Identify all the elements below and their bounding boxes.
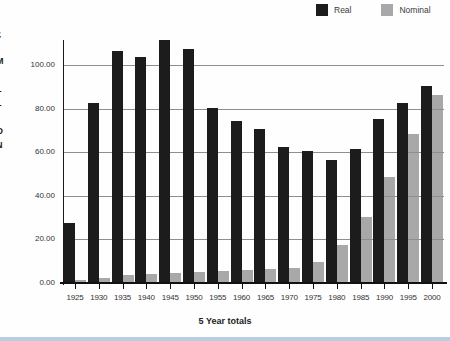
x-tick [218, 284, 219, 289]
bar-real [421, 86, 432, 282]
bar-real [159, 40, 170, 282]
bar-nominal [265, 269, 276, 282]
bar-group [158, 40, 182, 282]
bar-group [373, 40, 397, 282]
bar-group [301, 40, 325, 282]
bar-real [112, 51, 123, 282]
bar-real [231, 121, 242, 282]
bar-group [349, 40, 373, 282]
bar-group [111, 40, 135, 282]
x-tick [384, 284, 385, 289]
bar-group [277, 40, 301, 282]
bar-nominal [361, 217, 372, 282]
bar-nominal [432, 95, 443, 282]
bar-real [326, 160, 337, 282]
bar-real [135, 57, 146, 282]
bar-real [207, 108, 218, 282]
bar-group [396, 40, 420, 282]
x-tick [75, 284, 76, 289]
bar-real [373, 119, 384, 283]
bar-group [134, 40, 158, 282]
x-tick [146, 284, 147, 289]
bar-nominal [194, 272, 205, 282]
bar-real [278, 147, 289, 282]
bar-nominal [289, 268, 300, 282]
bar-nominal [146, 274, 157, 282]
bar-group [206, 40, 230, 282]
bar-nominal [337, 245, 348, 282]
bar-nominal [242, 270, 253, 282]
y-tick-label: 20.00 [15, 234, 55, 244]
y-tick-label: 0.00 [15, 278, 55, 288]
bar-real [64, 223, 75, 282]
x-tick [194, 284, 195, 289]
x-tick [123, 284, 124, 289]
bar-real [397, 103, 408, 282]
bar-nominal [408, 134, 419, 282]
chart-panel: Real Nominal £MILLION 0.0020.0040.0060.0… [0, 0, 450, 341]
x-tick [170, 284, 171, 289]
bar-real [302, 151, 313, 282]
bar-real [183, 49, 194, 282]
bar-nominal [313, 262, 324, 282]
y-tick-label: 60.00 [15, 147, 55, 157]
bar-nominal [170, 273, 181, 282]
bar-group [87, 40, 111, 282]
bar-real [88, 103, 99, 282]
bar-group [420, 40, 444, 282]
bar-group [63, 40, 87, 282]
bar-group [254, 40, 278, 282]
x-tick-label: 2000 [417, 293, 447, 302]
x-tick [408, 284, 409, 289]
x-tick [99, 284, 100, 289]
x-tick [289, 284, 290, 289]
y-axis-line [63, 40, 64, 285]
x-tick [313, 284, 314, 289]
bottom-window-edge [0, 337, 450, 341]
bar-group [230, 40, 254, 282]
bar-group [325, 40, 349, 282]
bar-group [182, 40, 206, 282]
bar-nominal [218, 271, 229, 282]
x-tick [265, 284, 266, 289]
x-tick [361, 284, 362, 289]
x-tick [337, 284, 338, 289]
bar-real [254, 129, 265, 282]
x-axis-title: 5 Year totals [0, 316, 450, 326]
y-tick-label: 40.00 [15, 191, 55, 201]
x-axis-line [60, 282, 447, 284]
bar-real [350, 149, 361, 282]
y-tick-label: 80.00 [15, 104, 55, 114]
bar-nominal [384, 177, 395, 282]
y-tick-label: 100.00 [15, 60, 55, 70]
plot-area: 0.0020.0040.0060.0080.00100.001925193019… [0, 0, 450, 341]
x-tick [242, 284, 243, 289]
x-tick [432, 284, 433, 289]
